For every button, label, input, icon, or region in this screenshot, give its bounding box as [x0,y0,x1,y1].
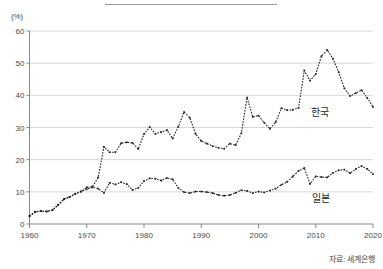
y-axis-ticks: 0102030405060 [16,27,30,229]
y-tick-label: 30 [16,124,25,133]
y-tick-label: 50 [16,59,25,68]
y-tick-label: 0 [20,220,25,229]
x-tick-label: 2010 [307,231,325,240]
x-tick-label: 2020 [364,231,382,240]
x-tick-label: 1990 [192,231,210,240]
series-label-japan: 일본 [312,190,331,205]
source-note: 자료: 세계은행 [329,253,375,264]
x-axis-ticks: 1960197019801990200020102020 [21,224,383,240]
y-tick-label: 20 [16,156,25,165]
y-tick-label: 40 [16,91,25,100]
series-label-korea: 한국 [311,104,330,119]
y-tick-label: 10 [16,188,25,197]
chart-plot-area: 0102030405060 19601970198019902000201020… [0,0,383,269]
y-tick-label: 60 [16,27,25,36]
x-tick-label: 2000 [250,231,268,240]
chart-figure: (%) 0102030405060 1960197019801990200020… [0,0,383,269]
x-tick-label: 1970 [78,231,96,240]
x-tick-label: 1960 [21,231,39,240]
x-tick-label: 1980 [135,231,153,240]
